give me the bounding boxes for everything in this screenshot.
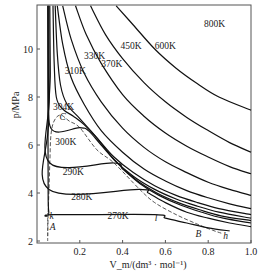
isotherm-label: 304K bbox=[53, 102, 74, 112]
point-annotation: C bbox=[60, 112, 67, 122]
isotherm-label: 280K bbox=[71, 192, 92, 202]
x-tick-label: 1.0 bbox=[245, 246, 258, 257]
point-annotation: l bbox=[155, 213, 158, 223]
point-annotation: h bbox=[223, 231, 228, 241]
y-axis-title: p/MPa bbox=[10, 91, 21, 118]
axis-ticks: 0.20.40.60.81.0246810 bbox=[23, 44, 257, 257]
isotherm-label: 330K bbox=[84, 51, 105, 61]
y-tick-label: 10 bbox=[23, 44, 33, 55]
isotherm-label: 800K bbox=[204, 19, 225, 29]
y-tick-label: 8 bbox=[28, 92, 33, 103]
x-tick-label: 0.8 bbox=[202, 246, 215, 257]
isotherm-label: 270K bbox=[108, 211, 129, 221]
isotherm-label: 450K bbox=[121, 41, 142, 51]
point-annotation: k bbox=[49, 211, 54, 221]
isotherm-chart: 0.20.40.60.81.0246810 800K600K450K370K33… bbox=[0, 0, 258, 275]
isotherm-450k bbox=[76, 6, 252, 174]
isotherm-label: 300K bbox=[55, 137, 76, 147]
y-tick-label: 6 bbox=[28, 140, 33, 151]
x-tick-label: 0.2 bbox=[74, 246, 87, 257]
y-tick-label: 2 bbox=[28, 236, 33, 247]
y-tick-label: 4 bbox=[28, 188, 33, 199]
isotherm-curves bbox=[42, 6, 251, 241]
isotherm-800k bbox=[116, 6, 251, 110]
x-axis-title: V_m/(dm³ · mol⁻¹) bbox=[109, 259, 186, 271]
isotherm-600k bbox=[91, 6, 252, 152]
x-tick-label: 0.6 bbox=[159, 246, 172, 257]
point-annotation: A bbox=[49, 222, 56, 232]
isotherm-label: 600K bbox=[155, 41, 176, 51]
point-annotation: B bbox=[195, 229, 201, 239]
isotherm-310k bbox=[55, 6, 251, 215]
isotherm-370k bbox=[63, 6, 251, 196]
isotherm-300k bbox=[49, 6, 251, 221]
plot-frame bbox=[37, 5, 251, 243]
isotherm-label: 310K bbox=[65, 66, 86, 76]
x-tick-label: 0.4 bbox=[116, 246, 129, 257]
isotherm-label: 290K bbox=[63, 167, 84, 177]
